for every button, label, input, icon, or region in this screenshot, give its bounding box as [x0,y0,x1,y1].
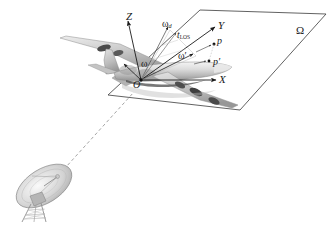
point-label-p: p [217,36,222,46]
figure-canvas: X Y Z Ω O p p′ ω ωd ω′ tLOS [0,0,333,225]
radar-antenna [9,155,80,222]
axis-label-z: Z [126,11,132,22]
point-label-p-prime: p′ [213,57,220,67]
vector-label-omega-d: ωd [162,19,172,30]
axis-label-x: X [219,74,226,85]
vector-label-omega-prime-mark: ′ [185,50,187,61]
origin-label-o: O [133,80,140,90]
vector-label-omega: ω [141,59,148,69]
axis-label-y: Y [218,20,224,31]
vector-label-omega-base: ω [141,58,148,69]
vector-label-omega-prime: ω′ [178,51,187,61]
vector-label-t-los: tLOS [177,31,190,41]
diagram-svg [0,0,333,225]
vector-label-t-los-sub: LOS [180,34,190,40]
line-of-sight-ray [56,92,134,178]
vector-label-omega-d-sub: d [169,22,172,29]
vector-label-omega-d-base: ω [162,18,169,29]
vector-label-omega-prime-base: ω [178,50,185,61]
plane-label-omega-capital: Ω [296,25,304,36]
